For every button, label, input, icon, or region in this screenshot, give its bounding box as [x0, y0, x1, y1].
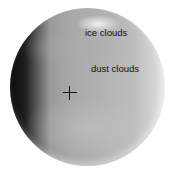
crosshair-marker-icon	[63, 86, 77, 100]
ice-clouds-label: ice clouds	[85, 28, 127, 38]
dust-clouds-label: dust clouds	[91, 64, 139, 74]
